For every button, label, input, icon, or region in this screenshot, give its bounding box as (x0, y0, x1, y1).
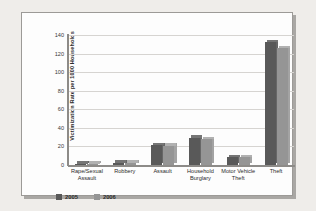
bar-2006 (87, 164, 98, 166)
bar-2005 (151, 145, 162, 165)
bar-2005 (227, 157, 238, 165)
x-tick-label: Robbery (106, 168, 144, 188)
bar-top-face (191, 135, 202, 138)
legend-swatch-icon (56, 194, 62, 200)
bar-2006 (277, 48, 288, 165)
x-tick-label: Theft (257, 168, 295, 188)
bar-face (151, 145, 162, 165)
bar-2005 (75, 164, 86, 166)
bar-face (227, 157, 238, 165)
chart-screenshot: Victimization Rate per 1000 Households 0… (0, 0, 316, 211)
y-tick-label-60: 60 (26, 106, 64, 112)
x-tick-label: Motor Vehicle Theft (219, 168, 257, 188)
legend-label: 2006 (103, 194, 116, 200)
bar-group (70, 35, 104, 165)
bar-2006 (163, 146, 174, 166)
chart-legend: 20052006 (56, 194, 116, 200)
bar-face (201, 139, 212, 165)
bar-face (75, 164, 86, 166)
bar-side-face (288, 46, 291, 163)
bar-top-face (165, 143, 176, 146)
bar-side-face (174, 143, 177, 163)
bar-face (189, 138, 200, 165)
bar-face (163, 146, 174, 166)
bar-2006 (201, 139, 212, 165)
bar-2006 (239, 157, 250, 165)
legend-item[interactable]: 2005 (56, 194, 78, 200)
bar-group (146, 35, 180, 165)
bar-group (259, 35, 293, 165)
y-tick-label-140: 140 (26, 32, 64, 38)
x-tick-label: Assault (144, 168, 182, 188)
x-tick-label: Household Burglary (181, 168, 219, 188)
bar-2006 (125, 163, 136, 165)
chart-panel: Victimization Rate per 1000 Households 0… (21, 12, 293, 196)
bar-face (239, 157, 250, 165)
legend-label: 2005 (65, 194, 78, 200)
bar-top-face (241, 155, 252, 158)
x-axis-category-labels: Rape/Sexual AssaultRobberyAssaultHouseho… (68, 168, 295, 188)
bar-top-face (89, 161, 100, 164)
y-tick-label-0: 0 (26, 162, 64, 168)
bar-2005 (265, 42, 276, 165)
bar-group (221, 35, 255, 165)
x-tick-label: Rape/Sexual Assault (68, 168, 106, 188)
bar-face (125, 163, 136, 165)
bar-side-face (212, 137, 215, 163)
bar-2005 (113, 163, 124, 165)
legend-item[interactable]: 2006 (94, 194, 116, 200)
bar-group (108, 35, 142, 165)
bar-face (87, 164, 98, 166)
bar-face (265, 42, 276, 165)
y-tick-label-120: 120 (26, 51, 64, 57)
y-tick-label-40: 40 (26, 125, 64, 131)
legend-swatch-icon (94, 194, 100, 200)
y-axis-tick-labels: 020406080100120140 (22, 35, 64, 165)
bar-top-face (203, 137, 214, 140)
bar-top-face (279, 46, 290, 49)
bar-group (183, 35, 217, 165)
bar-2005 (189, 138, 200, 165)
x-axis-line (68, 165, 295, 167)
bar-face (277, 48, 288, 165)
y-tick-label-80: 80 (26, 88, 64, 94)
y-tick-label-100: 100 (26, 69, 64, 75)
bar-top-face (267, 40, 278, 43)
y-tick-label-20: 20 (26, 143, 64, 149)
bar-top-face (127, 160, 138, 163)
bar-groups (68, 35, 295, 165)
bar-face (113, 163, 124, 165)
